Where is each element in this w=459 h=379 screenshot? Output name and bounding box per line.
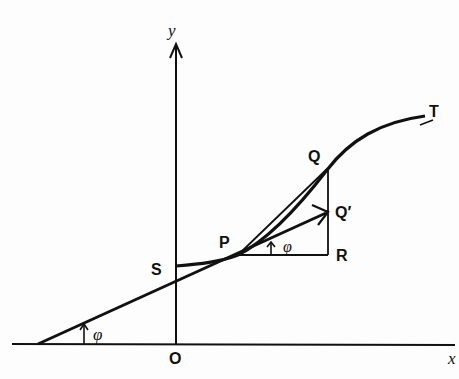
curve	[176, 116, 425, 266]
y-axis-label: y	[166, 21, 176, 40]
point-Q-label: Q	[308, 148, 320, 165]
point-P-label: P	[219, 234, 230, 251]
angle-arrow-icon-P	[267, 242, 275, 255]
tangent-line	[38, 213, 326, 344]
angle-arrow-icon-axis	[80, 324, 88, 344]
point-Q-prime-label: Q′	[335, 204, 351, 221]
angle-phi-axis-label: φ	[93, 325, 102, 344]
diagram-canvas: y x O S P Q Q′ R T φ φ	[0, 0, 459, 379]
x-axis-label: x	[447, 349, 456, 368]
origin-label: O	[169, 350, 181, 367]
diagram-svg: y x O S P Q Q′ R T φ φ	[0, 0, 459, 379]
curve-end-tick	[420, 120, 433, 125]
x-axis	[12, 344, 455, 345]
point-S-label: S	[151, 261, 162, 278]
point-T-label: T	[429, 103, 439, 120]
point-R-label: R	[336, 247, 348, 264]
angle-phi-P-label: φ	[283, 238, 292, 256]
